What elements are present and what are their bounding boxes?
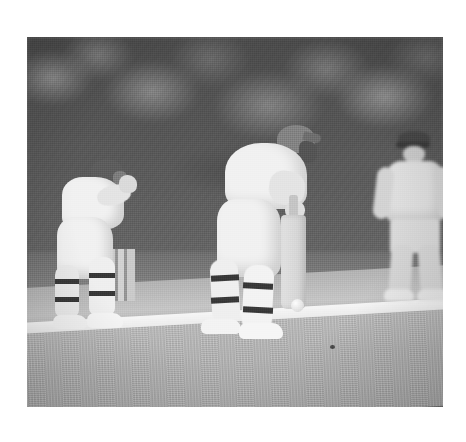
grass-speck	[330, 345, 335, 349]
screenshot-canvas: Black and white photograph of a cricket …	[0, 0, 466, 442]
keeper-pad-left-strap-2	[55, 297, 79, 302]
batsman-pad-back	[209, 258, 240, 321]
player-batsman	[207, 119, 337, 344]
player-wicket-keeper	[57, 157, 177, 349]
batsman-shoe-front	[239, 323, 283, 339]
fielder-shoe-right	[417, 289, 443, 301]
keeper-pad-right-strap-2	[89, 291, 115, 296]
batsman-shoe-back	[201, 319, 241, 334]
keeper-shoe-left	[53, 315, 87, 329]
cricket-bat-blade	[281, 215, 306, 309]
keeper-shoe-right	[87, 313, 123, 328]
keeper-pad-right-strap-1	[89, 273, 115, 278]
batsman-pad-front	[241, 264, 274, 329]
fielder-leg-left	[388, 244, 413, 293]
keeper-pad-right	[89, 257, 115, 315]
keeper-pad-left	[55, 265, 79, 317]
player-fielder	[372, 129, 443, 307]
fielder-shoe-left	[384, 289, 414, 301]
cricket-photograph	[27, 37, 443, 407]
keeper-pad-left-strap-1	[55, 279, 79, 284]
fielder-leg-right	[417, 244, 442, 293]
cricket-ball	[291, 299, 304, 312]
keeper-gloves	[119, 175, 137, 193]
